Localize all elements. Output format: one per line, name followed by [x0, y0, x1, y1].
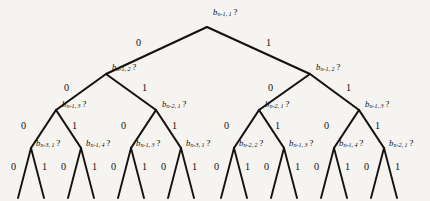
tree-edge — [321, 148, 334, 198]
tree-edge-label-1: 1 — [192, 162, 197, 172]
tree-edge — [18, 148, 31, 198]
tree-edge — [81, 148, 94, 198]
tree-node-label-n3c: bn-2, 1? — [265, 100, 289, 109]
tree-edge-label-1: 1 — [245, 162, 250, 172]
tree-node-label-n4d: bn-3, 1? — [186, 139, 210, 148]
tree-edge — [271, 148, 284, 198]
tree-edge-label-1: 1 — [375, 121, 380, 131]
tree-node-label-n4e: bn-2, 2? — [239, 139, 263, 148]
tree-edge-label-1: 1 — [92, 162, 97, 172]
tree-edge-label-0: 0 — [21, 121, 26, 131]
tree-edge-label-1: 1 — [346, 83, 351, 93]
tree-edge — [131, 148, 144, 198]
tree-edge — [118, 148, 131, 198]
tree-edge — [31, 148, 44, 198]
tree-node-label-n3a: bn-1, 3? — [62, 100, 86, 109]
tree-node-label-n4c: bn-1, 3? — [136, 139, 160, 148]
tree-node-label-n4h: bn-2, 1? — [389, 139, 413, 148]
tree-edge-label-1: 1 — [295, 162, 300, 172]
tree-edge-label-0: 0 — [64, 83, 69, 93]
tree-edge — [384, 148, 397, 198]
tree-edge-label-1: 1 — [275, 121, 280, 131]
tree-edge-label-0: 0 — [11, 162, 16, 172]
decision-tree-figure: bn-1, 1?bn-1, 2?bn-1, 2?bn-1, 3?bn-2, 1?… — [0, 0, 430, 201]
tree-edge-label-0: 0 — [111, 162, 116, 172]
tree-edge-label-0: 0 — [61, 162, 66, 172]
tree-edge — [234, 148, 247, 198]
tree-edge-label-0: 0 — [314, 162, 319, 172]
tree-node-label-n4f: bn-1, 3? — [289, 139, 313, 148]
tree-edge — [207, 27, 310, 74]
tree-edge-label-1: 1 — [172, 121, 177, 131]
tree-node-label-n3b: bn-2, 1? — [162, 100, 186, 109]
tree-edge — [221, 148, 234, 198]
tree-node-label-n4a: bn-3, 1? — [36, 139, 60, 148]
tree-edge — [284, 148, 297, 198]
tree-edge-label-1: 1 — [345, 162, 350, 172]
tree-edge-label-0: 0 — [324, 121, 329, 131]
tree-node-label-n3d: bn-1, 3? — [365, 100, 389, 109]
tree-edge-label-0: 0 — [268, 83, 273, 93]
tree-edge-label-0: 0 — [264, 162, 269, 172]
edges-group — [18, 27, 397, 198]
tree-node-label-n2r: bn-1, 2? — [316, 63, 340, 72]
tree-node-label-n2l: bn-1, 2? — [112, 63, 136, 72]
tree-edge — [68, 148, 81, 198]
tree-edge — [181, 148, 194, 198]
tree-edge-label-0: 0 — [121, 121, 126, 131]
tree-edge-label-1: 1 — [72, 121, 77, 131]
tree-edge — [106, 74, 156, 110]
tree-edge — [168, 148, 181, 198]
tree-node-label-n4g: bn-1, 4? — [339, 139, 363, 148]
tree-node-label-root: bn-1, 1? — [213, 8, 237, 17]
tree-edge-label-1: 1 — [142, 83, 147, 93]
tree-edge-label-0: 0 — [214, 162, 219, 172]
tree-edge — [310, 74, 359, 110]
tree-edge-label-0: 0 — [364, 162, 369, 172]
tree-edge-label-1: 1 — [266, 38, 271, 48]
tree-edge — [334, 148, 347, 198]
tree-edge-label-0: 0 — [161, 162, 166, 172]
tree-node-label-n4b: bn-1, 4? — [86, 139, 110, 148]
tree-edge-label-0: 0 — [136, 38, 141, 48]
tree-edge-label-1: 1 — [395, 162, 400, 172]
tree-edge-label-1: 1 — [42, 162, 47, 172]
tree-edge-label-1: 1 — [142, 162, 147, 172]
tree-edge — [371, 148, 384, 198]
tree-edge-label-0: 0 — [224, 121, 229, 131]
